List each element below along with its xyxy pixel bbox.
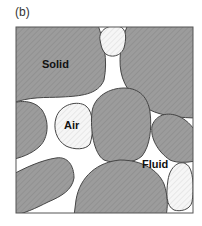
air-bubble-bottom-right	[167, 163, 193, 211]
soil-pore-diagram: Solid Air Fluid	[0, 0, 202, 226]
solid-grain-center	[92, 88, 151, 163]
air-label: Air	[64, 119, 80, 131]
solid-label: Solid	[42, 58, 69, 70]
air-bubble-top	[100, 26, 126, 56]
fluid-label: Fluid	[142, 158, 168, 170]
